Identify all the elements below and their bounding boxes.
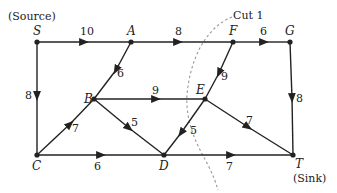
edge-c-b — [37, 99, 94, 155]
node-label-d: D — [158, 159, 169, 173]
node-label-t: T — [295, 157, 304, 171]
capacity-c-b: 7 — [72, 122, 79, 135]
node-g — [287, 39, 292, 44]
node-label-s: S — [33, 24, 41, 38]
capacity-s-a: 10 — [80, 25, 94, 38]
node-d — [161, 152, 166, 157]
node-s — [34, 39, 39, 44]
node-label-g: G — [285, 24, 295, 38]
cut-label: Cut 1 — [233, 9, 263, 22]
edge-f-e — [205, 42, 233, 99]
capacity-b-e: 9 — [152, 84, 159, 97]
source-annotation: (Source) — [8, 10, 56, 23]
capacity-s-c: 8 — [25, 89, 32, 102]
node-label-a: A — [126, 24, 136, 38]
sink-annotation: (Sink) — [293, 172, 326, 185]
capacity-c-d: 6 — [94, 160, 101, 173]
capacity-e-t: 7 — [246, 114, 253, 127]
edge-e-t — [205, 99, 293, 155]
node-e — [202, 96, 207, 101]
node-label-b: B — [83, 92, 93, 106]
node-label-f: F — [228, 24, 238, 38]
capacity-g-t: 8 — [296, 92, 303, 105]
edge-b-d — [94, 99, 164, 155]
node-a — [128, 39, 133, 44]
capacity-f-e: 9 — [221, 70, 228, 83]
capacity-e-d: 5 — [190, 124, 197, 137]
capacity-f-g: 6 — [260, 25, 267, 38]
capacity-a-b: 6 — [117, 67, 124, 80]
node-label-c: C — [32, 159, 41, 173]
capacity-b-d: 5 — [131, 116, 138, 129]
edge-e-d — [164, 99, 205, 155]
edge-g-t — [290, 42, 293, 155]
node-f — [230, 39, 235, 44]
node-c — [34, 152, 39, 157]
edge-a-b — [94, 42, 131, 99]
capacity-a-f: 8 — [175, 25, 182, 38]
capacity-d-t: 7 — [226, 160, 233, 173]
node-label-e: E — [195, 83, 205, 97]
flow-network-diagram: S A F G B E C D T 10 8 6 8 6 9 8 9 7 5 5… — [0, 0, 337, 193]
